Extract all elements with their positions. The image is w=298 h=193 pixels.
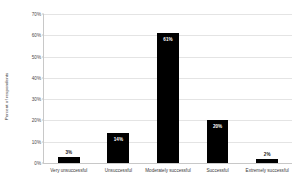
x-category-label: Extremely successful: [246, 168, 289, 173]
x-category-label: Successful: [206, 168, 228, 173]
bar-value-label: 3%: [65, 150, 72, 155]
y-tick-label: 30%: [32, 97, 41, 102]
bar-value-label: 20%: [213, 124, 222, 129]
y-tick-label: 50%: [32, 54, 41, 59]
y-tick-label: 70%: [32, 12, 41, 17]
bar-slot: 14%Unsuccessful: [94, 14, 144, 163]
bar[interactable]: 61%: [157, 33, 179, 163]
bar[interactable]: 14%: [107, 133, 129, 163]
y-tick-label: 20%: [32, 118, 41, 123]
bar-slot: 3%Very unsuccessful: [44, 14, 94, 163]
y-tick-label: 0%: [34, 161, 41, 166]
bar-value-label: 14%: [114, 137, 123, 142]
y-tick-label: 10%: [32, 139, 41, 144]
bar-value-label: 2%: [264, 152, 271, 157]
x-category-label: Moderately successful: [145, 168, 190, 173]
bar-chart: Percent of respondents 0%10%20%30%40%50%…: [0, 0, 298, 193]
y-axis-title: Percent of respondents: [0, 0, 12, 193]
x-category-label: Unsuccessful: [105, 168, 132, 173]
bar-slot: 2%Extremely successful: [242, 14, 292, 163]
bar-slot: 61%Moderately successful: [143, 14, 193, 163]
y-tick-label: 60%: [32, 33, 41, 38]
y-tick-label: 40%: [32, 75, 41, 80]
bar[interactable]: 2%: [256, 159, 278, 163]
bar-value-label: 61%: [163, 37, 172, 42]
x-category-label: Very unsuccessful: [50, 168, 87, 173]
bar[interactable]: 20%: [207, 120, 229, 163]
bar[interactable]: 3%: [58, 157, 80, 163]
plot-area: 0%10%20%30%40%50%60%70% 3%Very unsuccess…: [43, 14, 292, 164]
bar-slot: 20%Successful: [193, 14, 243, 163]
